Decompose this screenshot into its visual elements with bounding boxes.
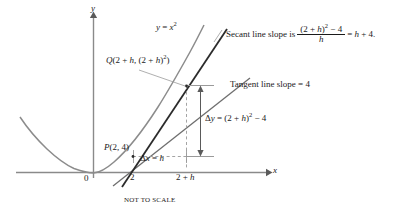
x-tick-label-2: 2 xyxy=(130,173,135,182)
curve-equation-label: y = x2 xyxy=(156,21,177,32)
point-q-label: Q(2 + h, (2 + h)2) xyxy=(106,54,169,65)
secant-slope-result: = h + 4. xyxy=(347,29,375,39)
y-axis-label: y xyxy=(91,4,95,13)
point-p-marker xyxy=(132,155,135,158)
point-p-label: P(2, 4) xyxy=(104,143,129,152)
secant-slope-annotation: Secant line slope is(2 + h)2 − 4h= h + 4… xyxy=(226,24,375,46)
delta-y-arrow xyxy=(197,86,203,157)
x-axis-label: x xyxy=(273,166,277,175)
x-tick-label-2-plus-h: 2 + h xyxy=(176,173,195,182)
secant-slope-prefix: Secant line slope is xyxy=(226,29,295,39)
x-axis xyxy=(16,169,273,176)
calculus-secant-tangent-figure: y x 0 y = x2 Secant line slope is(2 + h)… xyxy=(0,0,409,221)
secant-slope-denominator: h xyxy=(297,35,345,44)
delta-y-annotation: Δy = (2 + h)2 − 4 xyxy=(205,112,266,123)
tangent-slope-annotation: Tangent line slope = 4 xyxy=(230,80,310,89)
y-axis xyxy=(90,12,97,179)
secant-slope-fraction: (2 + h)2 − 4h xyxy=(297,23,345,45)
leader-line-secant xyxy=(214,30,222,42)
not-to-scale-caption: NOT TO SCALE xyxy=(124,197,175,204)
point-q-marker xyxy=(185,85,188,88)
origin-label: 0 xyxy=(84,174,89,183)
delta-x-annotation: Δx = h xyxy=(140,154,164,163)
